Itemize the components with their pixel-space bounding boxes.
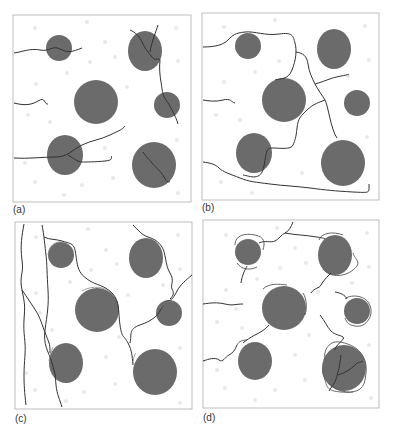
panel-c: (c): [0, 215, 200, 437]
panel-b: (b): [195, 0, 393, 220]
panel-label-b: (b): [202, 202, 214, 213]
panel-a: (a): [0, 0, 200, 220]
panel-c-diagram: [0, 215, 200, 437]
panel-label-c: (c): [15, 413, 27, 424]
panel-a-diagram: [0, 0, 200, 220]
panel-label-a: (a): [13, 204, 25, 215]
panel-b-diagram: [195, 0, 393, 220]
panel-d-diagram: [195, 215, 393, 437]
panel-d: (d): [195, 215, 393, 437]
panel-label-d: (d): [203, 412, 215, 423]
